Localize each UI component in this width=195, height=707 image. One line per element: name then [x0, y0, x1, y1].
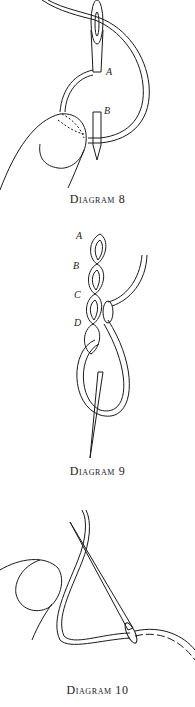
label-a: A: [106, 66, 112, 77]
label-c: C: [74, 289, 81, 300]
diagram-8-illustration: [0, 0, 195, 215]
diagram-10-illustration: [0, 500, 195, 707]
label-a: A: [76, 230, 82, 241]
diagram-10-caption: Diagram 10: [0, 683, 195, 698]
diagram-8: A B Diagram 8: [0, 0, 195, 215]
diagram-8-caption: Diagram 8: [0, 192, 195, 207]
label-b: B: [73, 260, 79, 271]
diagram-10: Diagram 10: [0, 500, 195, 707]
diagram-9-caption: Diagram 9: [0, 464, 195, 479]
label-d: D: [74, 317, 81, 328]
diagram-9: A B C D Diagram 9: [0, 220, 195, 480]
diagram-9-illustration: [0, 220, 195, 480]
label-b: B: [104, 105, 110, 116]
